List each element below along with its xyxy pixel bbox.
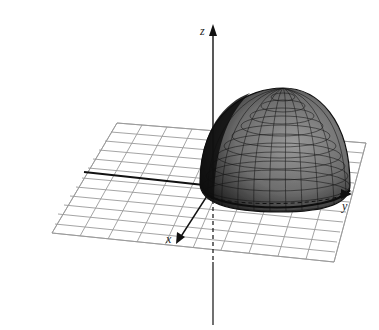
- z-axis-arrowhead: [209, 24, 217, 36]
- x-axis-label: x: [165, 232, 172, 246]
- y-axis-label: y: [341, 199, 348, 213]
- hemisphere-diagram: z y x: [0, 0, 379, 330]
- z-axis-label: z: [199, 24, 205, 38]
- hemisphere-surface: [200, 88, 352, 212]
